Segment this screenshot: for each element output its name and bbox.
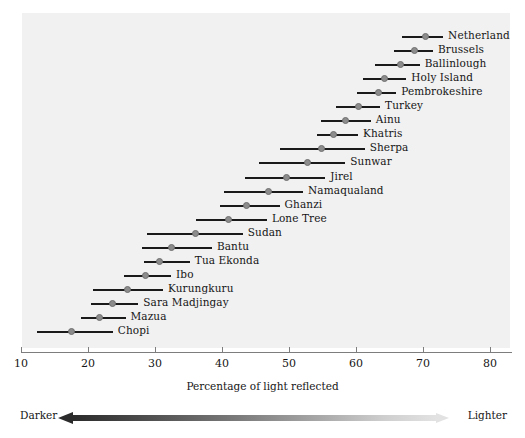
data-row: Ballinlough [22, 59, 510, 72]
data-row: Jirel [22, 172, 510, 185]
mean-marker [265, 188, 272, 195]
mean-marker [124, 286, 131, 293]
data-row: Ibo [22, 270, 510, 283]
mean-marker [68, 328, 75, 335]
mean-marker [283, 174, 290, 181]
x-axis-line [22, 352, 512, 353]
range-line [81, 317, 125, 319]
data-row: Sara Madjingay [22, 298, 510, 311]
row-label: Sara Madjingay [143, 296, 229, 308]
arrow-right-icon [436, 413, 449, 423]
range-line [144, 261, 190, 263]
data-row: Ghanzi [22, 200, 510, 213]
data-row: Tua Ekonda [22, 256, 510, 269]
row-label: Pembrokeshire [401, 85, 482, 97]
x-tick-label: 30 [148, 357, 162, 370]
legend-lighter-label: Lighter [468, 409, 507, 421]
data-row: Mazua [22, 312, 510, 325]
data-row: Sudan [22, 228, 510, 241]
data-row: Khatris [22, 129, 510, 142]
row-label: Brussels [438, 43, 484, 55]
range-line [224, 191, 303, 193]
data-row: Sherpa [22, 143, 510, 156]
x-tick [222, 347, 223, 353]
x-tick [21, 347, 22, 353]
x-tick [490, 347, 491, 353]
row-label: Sudan [248, 226, 282, 238]
row-label: Ibo [176, 268, 194, 280]
range-line [259, 162, 345, 164]
mean-marker [318, 145, 325, 152]
mean-marker [422, 33, 429, 40]
x-tick-label: 50 [282, 357, 296, 370]
mean-marker [142, 272, 149, 279]
mean-marker [304, 159, 311, 166]
mean-marker [96, 314, 103, 321]
x-tick [155, 347, 156, 353]
x-tick-label: 20 [81, 357, 95, 370]
mean-marker [381, 75, 388, 82]
mean-marker [192, 230, 199, 237]
data-row: Sunwar [22, 157, 510, 170]
mean-marker [342, 117, 349, 124]
data-row: Brussels [22, 45, 510, 58]
x-tick-label: 70 [416, 357, 430, 370]
shade-gradient-legend: Darker Lighter [0, 405, 525, 429]
row-label: Jirel [330, 170, 353, 182]
row-label: Ghanzi [285, 198, 323, 210]
plot-area: NetherlandsBrusselsBallinloughHoly Islan… [22, 13, 510, 348]
data-rows-container: NetherlandsBrusselsBallinloughHoly Islan… [22, 13, 510, 348]
row-label: Namaqualand [308, 184, 384, 196]
mean-marker [109, 300, 116, 307]
data-row: Lone Tree [22, 214, 510, 227]
x-tick-label: 40 [215, 357, 229, 370]
mean-marker [156, 258, 163, 265]
mean-marker [355, 103, 362, 110]
data-row: Netherlands [22, 31, 510, 44]
mean-marker [168, 244, 175, 251]
row-label: Kurungkuru [168, 282, 234, 294]
x-tick [356, 347, 357, 353]
row-label: Ainu [376, 113, 401, 125]
x-tick [289, 347, 290, 353]
x-tick [423, 347, 424, 353]
row-label: Turkey [385, 99, 423, 111]
chart-root: NetherlandsBrusselsBallinloughHoly Islan… [0, 0, 525, 438]
data-row: Chopi [22, 326, 510, 339]
x-tick-label: 60 [349, 357, 363, 370]
row-label: Sherpa [370, 141, 409, 153]
x-tick-label: 10 [14, 357, 28, 370]
x-tick [88, 347, 89, 353]
mean-marker [243, 202, 250, 209]
row-label: Khatris [363, 127, 403, 139]
row-label: Sunwar [350, 155, 392, 167]
mean-marker [375, 89, 382, 96]
mean-marker [330, 131, 337, 138]
mean-marker [397, 61, 404, 68]
data-row: Bantu [22, 242, 510, 255]
mean-marker [225, 216, 232, 223]
legend-darker-label: Darker [20, 409, 57, 421]
mean-marker [411, 47, 418, 54]
data-row: Holy Island [22, 73, 510, 86]
row-label: Netherlands [448, 29, 510, 41]
data-row: Namaqualand [22, 186, 510, 199]
arrow-left-icon [58, 412, 73, 424]
row-label: Tua Ekonda [195, 254, 259, 266]
data-row: Pembrokeshire [22, 87, 510, 100]
gradient-bar [73, 415, 436, 421]
data-row: Kurungkuru [22, 284, 510, 297]
row-label: Bantu [217, 240, 249, 252]
row-label: Holy Island [411, 71, 473, 83]
row-label: Ballinlough [425, 57, 487, 69]
row-label: Lone Tree [272, 212, 327, 224]
data-row: Ainu [22, 115, 510, 128]
x-axis-title: Percentage of light reflected [0, 380, 525, 392]
range-line [317, 134, 358, 136]
data-row: Turkey [22, 101, 510, 114]
row-label: Chopi [118, 324, 150, 336]
x-tick-label: 80 [483, 357, 497, 370]
range-line [142, 247, 212, 249]
row-label: Mazua [131, 310, 167, 322]
